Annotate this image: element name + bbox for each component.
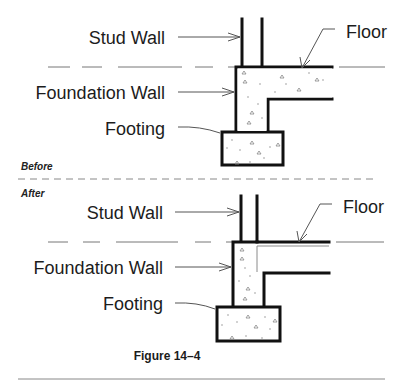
footing [217,307,280,341]
stud-wall-label: Stud Wall [87,203,163,223]
figure-14-4: Stud Wall Foundation Wall Footing Floor … [0,0,402,381]
stud-wall-leader [178,33,240,41]
floor-label: Floor [343,197,384,217]
footing-label: Footing [105,119,165,139]
foundation-wall-leader [178,88,234,96]
floor-label: Floor [346,22,387,42]
figure-caption: Figure 14–4 [134,349,201,363]
after-tag: After [20,188,45,199]
foundation-wall-label: Foundation Wall [34,258,163,278]
after-diagram: Stud Wall Foundation Wall Footing Floor [34,196,384,341]
footing-leader [178,127,220,133]
before-diagram: Stud Wall Foundation Wall Footing Floor [36,19,387,165]
floor-leader [297,204,332,242]
concrete-fill [235,244,263,307]
footing-leader [175,303,215,309]
footing [222,132,283,165]
stud-wall-label: Stud Wall [89,28,165,48]
before-tag: Before [21,161,53,172]
footing-label: Footing [103,294,163,314]
foundation-wall-label: Foundation Wall [36,83,165,103]
foundation-wall-leader [175,263,231,271]
stud-wall-leader [175,208,239,216]
floor-slab-edge [257,246,329,272]
floor-leader [300,29,335,68]
